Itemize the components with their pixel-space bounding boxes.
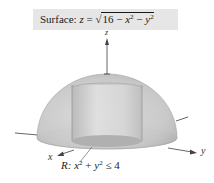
x-axis	[57, 150, 74, 156]
y-axis-label: y	[201, 145, 205, 156]
x-axis-back	[15, 133, 38, 135]
y-axis	[168, 148, 197, 155]
z-axis	[105, 38, 109, 74]
x-axis-label: x	[48, 151, 52, 162]
z-axis-label: z	[105, 28, 108, 37]
y-axis-back	[176, 117, 188, 121]
cylinder-region	[72, 83, 142, 147]
region-label: R: x2 + y2 ≤ 4	[61, 159, 120, 171]
